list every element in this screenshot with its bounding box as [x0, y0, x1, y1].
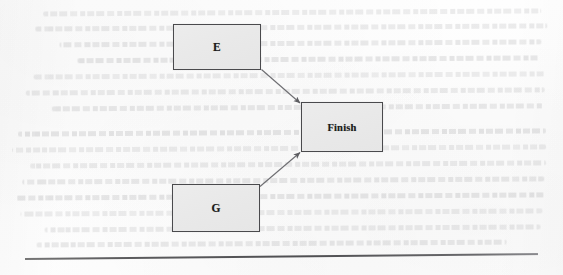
ghost-text-line	[34, 71, 546, 79]
ghost-text-line	[43, 8, 541, 16]
ghost-text-line	[59, 39, 541, 47]
flowchart-node-g-label: G	[211, 202, 220, 214]
ghost-text-layer	[0, 0, 563, 275]
edge-g-to-finish	[260, 153, 300, 187]
ghost-text-line	[22, 176, 544, 184]
footer-horizontal-rule	[25, 253, 538, 260]
flowchart-node-e: E	[173, 24, 261, 70]
ghost-text-line	[52, 103, 544, 111]
ghost-text-line	[12, 144, 546, 152]
paper-texture	[0, 0, 563, 275]
edge-g-to-finish-line	[260, 153, 300, 187]
edge-e-to-finish	[262, 70, 301, 104]
flowchart-node-finish: Finish	[301, 102, 383, 152]
scanned-page: E Finish G	[0, 0, 563, 275]
ghost-text-line	[26, 87, 545, 95]
ghost-text-line	[20, 208, 542, 216]
ghost-text-line	[30, 160, 546, 168]
ghost-text-line	[45, 224, 541, 232]
scan-vignette	[0, 0, 563, 275]
ghost-text-line	[18, 128, 546, 136]
ghost-text-line	[16, 192, 544, 200]
flowchart-node-finish-label: Finish	[327, 122, 356, 133]
edge-e-to-finish-line	[262, 70, 301, 104]
flowchart-node-g: G	[172, 184, 260, 232]
ghost-text-line	[37, 240, 507, 248]
connector-layer	[0, 0, 563, 275]
flowchart-node-e-label: E	[213, 41, 221, 53]
ghost-text-line	[78, 55, 540, 63]
ghost-text-line	[35, 23, 547, 31]
